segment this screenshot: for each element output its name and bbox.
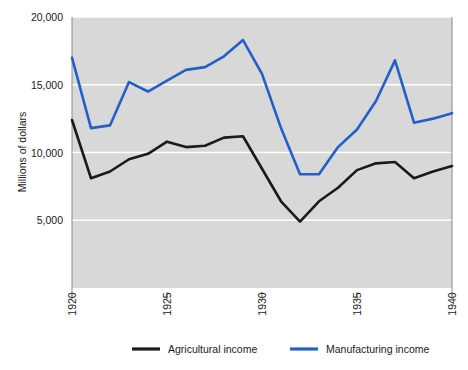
x-tick-label: 1925: [161, 292, 173, 316]
y-tick-label: 15,000: [31, 79, 63, 91]
chart-figure: 5,00010,00015,00020,000 1920192519301935…: [0, 0, 468, 370]
legend-label-1: Manufacturing income: [326, 343, 429, 355]
x-tick-label: 1930: [256, 292, 268, 316]
y-tick-label: 5,000: [37, 214, 63, 226]
y-tick-label: 10,000: [31, 147, 63, 159]
legend-label-0: Agricultural income: [168, 343, 257, 355]
x-tick-label: 1935: [351, 292, 363, 316]
line-chart: 5,00010,00015,00020,000 1920192519301935…: [0, 0, 468, 370]
y-axis-title: Millions of dollars: [16, 112, 28, 193]
y-tick-label: 20,000: [31, 11, 63, 23]
